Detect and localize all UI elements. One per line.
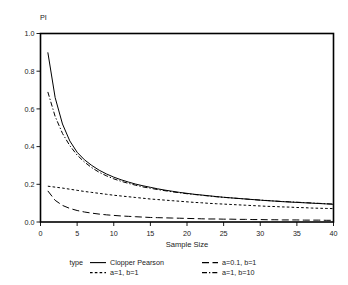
- series-line: [48, 92, 334, 204]
- y-tick-label: 1.0: [25, 29, 35, 38]
- x-tick-label: 0: [39, 229, 43, 238]
- legend-label: Clopper Pearson: [110, 258, 164, 267]
- series-group: [48, 52, 334, 220]
- x-tick-label: 20: [183, 229, 191, 238]
- x-tick-label: 25: [220, 229, 228, 238]
- y-tick-label: 0.0: [25, 218, 35, 227]
- y-tick-label: 0.4: [25, 142, 35, 151]
- legend-label: a=1, b=1: [110, 268, 138, 277]
- chart-container: PI 0.00.20.40.60.81.0 0510152025303540 S…: [0, 0, 348, 285]
- x-tick-label: 15: [146, 229, 154, 238]
- x-axis-ticks: 0510152025303540: [39, 222, 338, 238]
- y-axis-ticks: 0.00.20.40.60.81.0: [25, 29, 41, 227]
- x-tick-label: 35: [293, 229, 301, 238]
- y-tick-label: 0.8: [25, 67, 35, 76]
- y-axis-title: PI: [40, 13, 47, 22]
- x-tick-label: 10: [110, 229, 118, 238]
- y-tick-label: 0.6: [25, 105, 35, 114]
- y-tick-label: 0.2: [25, 180, 35, 189]
- line-chart: PI 0.00.20.40.60.81.0 0510152025303540 S…: [0, 0, 348, 285]
- legend-title: type: [69, 258, 83, 267]
- x-axis-title: Sample Size: [166, 240, 209, 249]
- series-line: [48, 191, 334, 220]
- series-line: [48, 52, 334, 204]
- x-tick-label: 40: [330, 229, 338, 238]
- x-tick-label: 5: [75, 229, 79, 238]
- legend-label: a=0.1, b=1: [222, 258, 256, 267]
- legend-label: a=1, b=10: [222, 268, 254, 277]
- series-line: [48, 186, 334, 208]
- y-axis-title-group: PI: [40, 13, 47, 22]
- chart-legend: type Clopper Pearsona=0.1, b=1a=1, b=1a=…: [69, 258, 256, 277]
- x-tick-label: 30: [256, 229, 264, 238]
